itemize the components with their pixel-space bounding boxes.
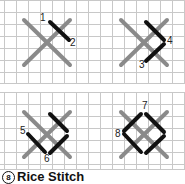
caption-number-badge: 8 bbox=[2, 171, 15, 184]
label-7: 7 bbox=[142, 100, 148, 111]
grid-bottom-svg bbox=[0, 92, 185, 170]
label-8: 8 bbox=[115, 128, 121, 139]
panel-step-1 bbox=[24, 20, 70, 65]
label-5: 5 bbox=[20, 125, 26, 136]
label-4: 4 bbox=[167, 35, 173, 46]
label-6: 6 bbox=[44, 153, 50, 164]
grid-bottom: 5 6 7 8 bbox=[0, 92, 185, 170]
grid-top-svg bbox=[0, 0, 185, 84]
panel-step-3 bbox=[24, 112, 70, 157]
label-3: 3 bbox=[139, 59, 145, 70]
caption-title: Rice Stitch bbox=[17, 169, 84, 184]
grid-top: 1 2 3 4 bbox=[0, 0, 185, 84]
label-1: 1 bbox=[40, 12, 46, 23]
label-2: 2 bbox=[70, 37, 76, 48]
figure-caption: 8Rice Stitch bbox=[2, 169, 84, 184]
